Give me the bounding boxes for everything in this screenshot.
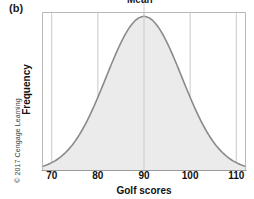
figure-panel-b: (b) Mean © 2017 Cengage Learning Frequen…	[0, 0, 254, 199]
mean-annotation-label: Mean	[127, 0, 153, 5]
y-axis-title: Frequency	[21, 50, 32, 130]
x-tick-label-110: 110	[219, 170, 253, 181]
x-tick-label-100: 100	[173, 170, 207, 181]
panel-label: (b)	[9, 2, 23, 14]
x-tick-label-90: 90	[127, 170, 161, 181]
x-tick-label-80: 80	[81, 170, 115, 181]
x-tick-label-70: 70	[35, 170, 69, 181]
x-axis-title: Golf scores	[42, 185, 246, 196]
copyright-notice: © 2017 Cengage Learning	[14, 86, 21, 196]
